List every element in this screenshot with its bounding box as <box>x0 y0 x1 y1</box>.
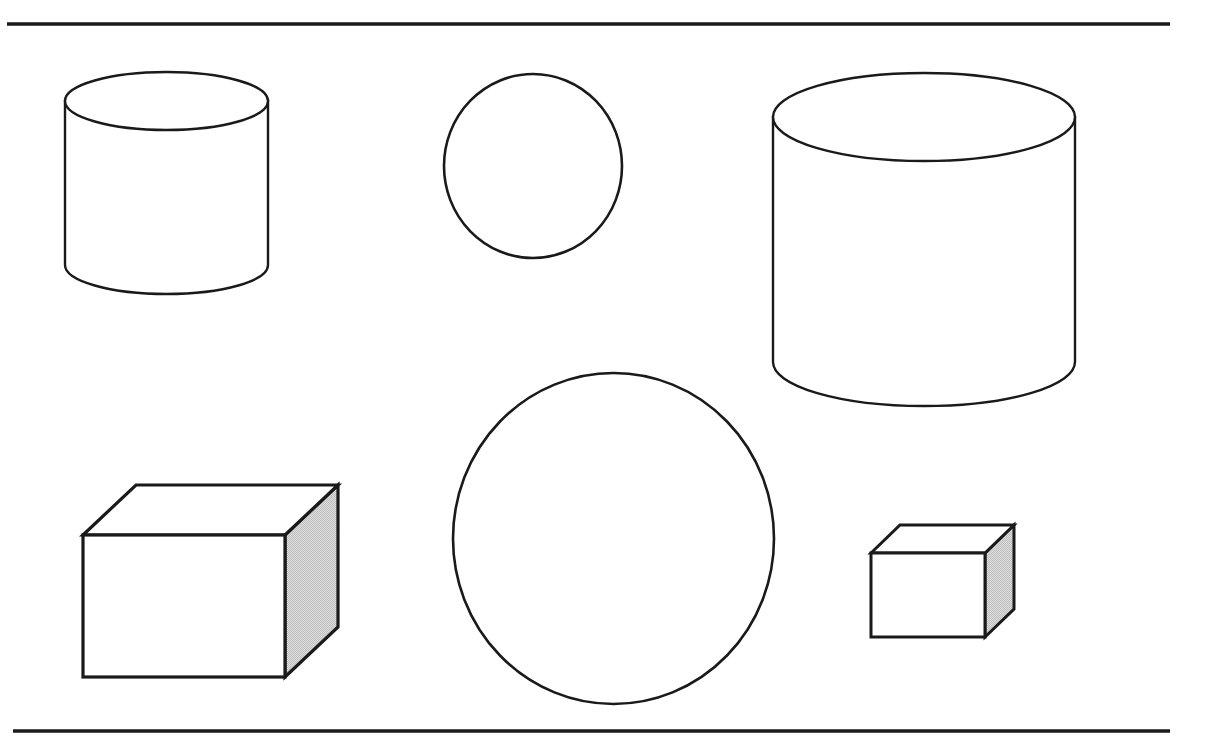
large-circle <box>453 373 774 704</box>
figure-page <box>0 0 1211 739</box>
large-cube <box>83 485 338 677</box>
small-cylinder-top-ellipse <box>65 72 268 130</box>
small-cube <box>871 525 1014 637</box>
small-cube-front-face <box>871 553 985 637</box>
geometric-solids-figure <box>0 0 1211 739</box>
small-cylinder <box>65 72 268 294</box>
large-cylinder-top-ellipse <box>773 73 1075 161</box>
large-cylinder <box>773 73 1075 406</box>
large-cube-front-face <box>83 535 285 677</box>
small-circle <box>444 74 622 258</box>
